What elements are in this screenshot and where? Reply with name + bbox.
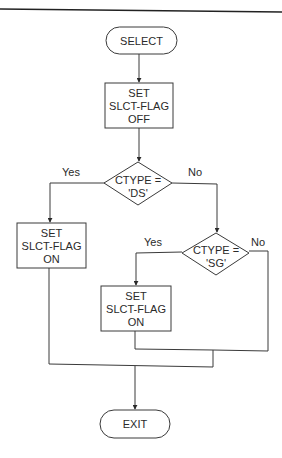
set-flag-on-right-box: SET SLCT-FLAG ON: [101, 286, 171, 331]
edge-sg-yes: [136, 252, 182, 285]
flowchart: SELECT SET SLCT-FLAG OFF CTYPE = 'DS' Ye…: [0, 0, 282, 458]
set-flag-on-left-line-3: ON: [43, 253, 60, 265]
set-flag-off-line-2: SLCT-FLAG: [109, 100, 169, 112]
set-flag-off-line-3: OFF: [128, 113, 150, 125]
decision-sg-line-2: 'SG': [206, 257, 226, 269]
set-flag-on-left-box: SET SLCT-FLAG ON: [17, 223, 86, 268]
decision-sg-line-1: CTYPE =: [193, 244, 239, 256]
edge-ds-yes: [50, 183, 105, 222]
decision-ds-line-1: CTYPE =: [115, 174, 161, 186]
set-flag-on-right-line-3: ON: [128, 316, 145, 328]
set-flag-off-box: SET SLCT-FLAG OFF: [105, 83, 173, 128]
set-flag-on-left-line-1: SET: [41, 227, 63, 239]
set-flag-on-left-line-2: SLCT-FLAG: [22, 240, 82, 252]
top-rule: [0, 9, 282, 12]
decision-ds-line-2: 'DS': [128, 187, 147, 199]
start-terminal-label: SELECT: [120, 35, 163, 47]
end-terminal-label: EXIT: [123, 418, 148, 430]
decision-ctype-ds: CTYPE = 'DS': [104, 162, 172, 205]
set-flag-off-line-1: SET: [128, 87, 150, 99]
set-flag-on-right-line-2: SLCT-FLAG: [106, 303, 166, 315]
decision-ctype-sg: CTYPE = 'SG': [182, 233, 249, 275]
set-flag-on-right-line-1: SET: [125, 290, 147, 302]
ds-no-label: No: [188, 166, 202, 178]
sg-no-label: No: [251, 236, 265, 248]
sg-yes-label: Yes: [144, 236, 162, 248]
start-terminal: SELECT: [106, 27, 177, 54]
end-terminal: EXIT: [100, 410, 170, 438]
ds-yes-label: Yes: [62, 166, 80, 178]
edge-set-on-right-merge: [135, 331, 213, 367]
edge-ds-no: [172, 183, 217, 232]
